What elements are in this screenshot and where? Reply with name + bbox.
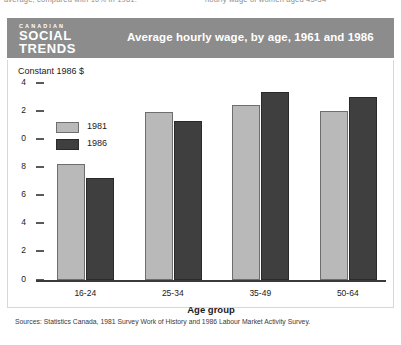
bar-1981-35-49[interactable]: [232, 105, 260, 279]
y-tick-label: 8: [21, 161, 26, 171]
x-axis-title: Age group: [36, 304, 386, 315]
bar-groups: [36, 83, 386, 280]
x-axis-label-16-24: 16-24: [45, 288, 125, 298]
bar-1981-50-64[interactable]: [320, 111, 348, 280]
chart-plot-area: 02468024 Age group 16-2425-3435-4950-64: [36, 82, 386, 282]
bar-group-25-34: [145, 83, 202, 280]
x-axis-label-25-34: 25-34: [133, 288, 213, 298]
y-tick-label: 4: [21, 217, 26, 227]
masthead-logo: CANADIAN SOCIAL TRENDS: [19, 23, 114, 55]
y-tick-label: 0: [21, 274, 26, 284]
y-axis-label: Constant 1986 $: [18, 66, 84, 76]
chart-plot-panel: Constant 1986 $ 1981 1986 02468024 Age g…: [7, 60, 394, 308]
page-top-cutoff-text: average, compared with 10% in 1981. hour…: [0, 0, 401, 9]
cutoff-text-right: hourly wage of women aged 45-54: [205, 0, 326, 4]
bar-1986-25-34[interactable]: [174, 121, 202, 280]
x-axis-label-50-64: 50-64: [308, 288, 388, 298]
x-axis-line: [36, 280, 386, 283]
bar-group-35-49: [232, 83, 289, 280]
bar-group-50-64: [320, 83, 377, 280]
cutoff-text-left: average, compared with 10% in 1981.: [4, 0, 137, 4]
masthead-line-trends: TRENDS: [19, 43, 114, 56]
chart-figure: CANADIAN SOCIAL TRENDS Average hourly wa…: [7, 18, 394, 340]
y-tick-label: 6: [21, 189, 26, 199]
x-axis-label-35-49: 35-49: [220, 288, 300, 298]
bar-group-16-24: [57, 83, 114, 280]
y-tick-label: 4: [21, 77, 26, 87]
y-tick-label: 2: [21, 105, 26, 115]
source-note: Sources: Statistics Canada, 1981 Survey …: [15, 318, 310, 325]
y-tick-label: 2: [21, 245, 26, 255]
bar-1981-16-24[interactable]: [57, 164, 85, 279]
y-tick-label: 0: [21, 133, 26, 143]
bar-1986-35-49[interactable]: [261, 92, 289, 279]
chart-title: Average hourly wage, by age, 1961 and 19…: [127, 31, 374, 43]
bar-1986-16-24[interactable]: [86, 178, 114, 279]
bar-1986-50-64[interactable]: [349, 97, 377, 280]
bar-1981-25-34[interactable]: [145, 112, 173, 279]
chart-header-band: CANADIAN SOCIAL TRENDS Average hourly wa…: [7, 18, 394, 58]
